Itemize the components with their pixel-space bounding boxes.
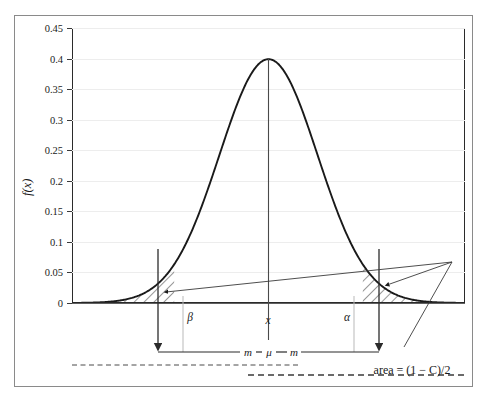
m-label-right: m (287, 346, 301, 358)
plot-area (72, 28, 465, 303)
gridline (72, 272, 465, 273)
y-axis-label: f(x) (20, 179, 35, 196)
y-axis-tick-label: 0.05 (0, 267, 63, 278)
y-axis-tick-label: 0.3 (0, 114, 63, 125)
y-axis-tick-mark (67, 181, 72, 182)
gridline (72, 242, 465, 243)
y-axis-tick-label: 0.45 (0, 23, 63, 34)
y-axis-tick-mark (67, 272, 72, 273)
y-axis-tick-label: 0.25 (0, 145, 63, 156)
gridline (72, 28, 465, 29)
gridline (72, 59, 465, 60)
gridline (72, 120, 465, 121)
gridline (72, 211, 465, 212)
y-axis-tick-mark (67, 150, 72, 151)
y-axis-tick-mark (67, 89, 72, 90)
beta-label: β (187, 311, 193, 323)
y-axis-tick-mark (67, 242, 72, 243)
gridline (72, 150, 465, 151)
y-axis-tick-mark (67, 59, 72, 60)
y-axis-tick-mark (67, 303, 72, 304)
gridline (72, 89, 465, 90)
y-axis-tick-label: 0.35 (0, 84, 63, 95)
gridline (72, 181, 465, 182)
area-annotation: area = (1 − C)/2 (374, 363, 451, 378)
y-axis-tick-label: 0.4 (0, 53, 63, 64)
y-axis-tick-mark (67, 211, 72, 212)
alpha-label: α (344, 311, 350, 323)
y-axis-tick-label: 0 (0, 298, 63, 309)
y-axis-tick-label: 0.1 (0, 236, 63, 247)
m-label-left: m (241, 346, 255, 358)
y-axis-tick-mark (67, 120, 72, 121)
mu-label: μ (263, 346, 275, 358)
y-axis-tick-label: 0.15 (0, 206, 63, 217)
x-label: x (265, 314, 270, 326)
statistics-figure: 00.050.10.150.20.250.30.350.40.45 f(x) (0, 0, 487, 403)
y-axis-tick-mark (67, 28, 72, 29)
